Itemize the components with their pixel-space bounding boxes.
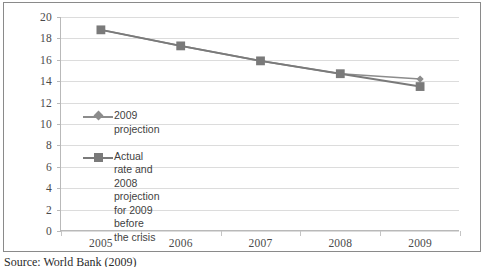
data-point-square xyxy=(176,41,185,50)
y-tick-label: 14 xyxy=(8,75,52,87)
data-point-square xyxy=(416,82,425,91)
y-tick-label: 6 xyxy=(8,161,52,173)
data-point-square xyxy=(336,69,345,78)
legend-label: 2009 projection xyxy=(113,109,160,136)
plot-area: 20052006200720082009 2009 projectionActu… xyxy=(60,17,459,231)
x-tick-label: 2008 xyxy=(328,237,352,249)
y-tick-label: 2 xyxy=(8,204,52,216)
data-point-square xyxy=(256,56,265,65)
legend-key-marker xyxy=(94,153,103,162)
y-tick-label: 10 xyxy=(8,118,52,130)
y-tick-label: 0 xyxy=(8,225,52,237)
legend-entry[interactable]: Actual rate and 2008 projection for 2009… xyxy=(83,150,160,245)
legend-entry[interactable]: 2009 projection xyxy=(83,109,160,136)
x-tick-label: 2009 xyxy=(408,237,432,249)
legend-label: Actual rate and 2008 projection for 2009… xyxy=(113,150,160,245)
y-tick-label: 18 xyxy=(8,32,52,44)
legend-key-marker xyxy=(94,111,104,121)
chart-screenshot: 20052006200720082009 2009 projectionActu… xyxy=(0,0,492,267)
y-tick-label: 4 xyxy=(8,182,52,194)
y-tick-label: 12 xyxy=(8,97,52,109)
y-tick-label: 16 xyxy=(8,54,52,66)
chart-frame: 20052006200720082009 2009 projectionActu… xyxy=(3,2,481,252)
series-line xyxy=(101,30,420,79)
legend-key-square-icon xyxy=(83,151,113,163)
x-tick-mark xyxy=(61,231,62,236)
data-point-square xyxy=(97,25,106,34)
x-tick-label: 2007 xyxy=(249,237,273,249)
x-tick-mark xyxy=(221,231,222,236)
x-tick-mark xyxy=(460,231,461,236)
y-tick-label: 8 xyxy=(8,139,52,151)
x-tick-label: 2006 xyxy=(169,237,193,249)
x-tick-mark xyxy=(300,231,301,236)
x-tick-mark xyxy=(380,231,381,236)
source-note: Source: World Bank (2009) xyxy=(4,255,304,267)
y-tick-label: 20 xyxy=(8,11,52,23)
data-point-diamond xyxy=(417,75,424,82)
legend-key-diamond-icon xyxy=(83,110,113,122)
